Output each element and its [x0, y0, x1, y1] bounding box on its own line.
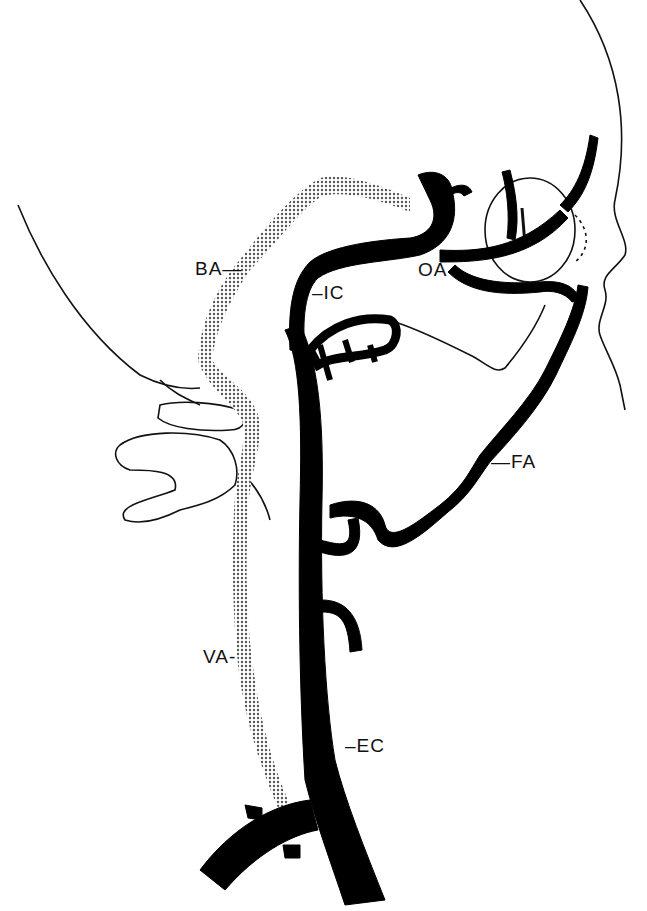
label-ophthalmic-artery: OA	[418, 259, 447, 281]
label-internal-carotid: –IC	[312, 282, 345, 304]
label-vertebral-artery: VA-	[203, 646, 236, 668]
label-external-carotid: –EC	[345, 735, 385, 757]
label-basilar-artery: BA—	[195, 258, 242, 280]
diagram-drawing	[0, 0, 647, 911]
artery-diagram: BA— –IC OA —FA VA- –EC	[0, 0, 647, 911]
label-facial-artery: —FA	[491, 451, 536, 473]
